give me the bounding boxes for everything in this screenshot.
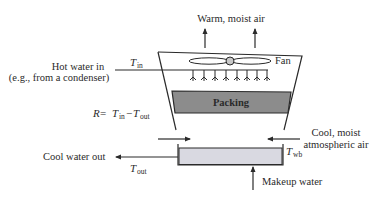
svg-text:T: T <box>130 162 137 174</box>
t-in-label: T in <box>130 56 143 70</box>
spray-nozzles <box>190 70 270 81</box>
makeup-water-label: Makeup water <box>262 176 323 187</box>
fan-icon <box>189 57 271 65</box>
warm-air-label: Warm, moist air <box>197 13 265 24</box>
svg-text:wb: wb <box>293 150 302 159</box>
cool-water-out-label: Cool water out <box>43 151 105 162</box>
svg-text:T: T <box>130 56 137 68</box>
packing-label: Packing <box>213 97 250 108</box>
svg-text:out: out <box>137 167 148 176</box>
svg-text:in: in <box>137 61 143 70</box>
svg-text:R: R <box>92 107 100 119</box>
svg-text:T: T <box>286 145 293 157</box>
cooling-tower-diagram: Warm, moist air Fan Hot water in (e.g., … <box>0 0 384 202</box>
fan-label: Fan <box>275 55 292 66</box>
svg-text:=: = <box>100 107 106 119</box>
range-equation: R = T in − T out <box>92 107 151 121</box>
cool-air-label: Cool, moist <box>311 127 360 138</box>
svg-text:T: T <box>133 107 140 119</box>
hot-water-in-label: Hot water in <box>52 61 105 72</box>
hot-water-source-label: (e.g., from a condenser) <box>9 72 110 84</box>
atmospheric-air-label: atmospheric air <box>303 139 369 150</box>
svg-text:out: out <box>140 112 151 121</box>
svg-text:in: in <box>119 112 125 121</box>
svg-text:−: − <box>126 107 132 119</box>
svg-text:T: T <box>112 107 119 119</box>
basin-water <box>179 148 282 165</box>
t-out-label: T out <box>130 162 148 176</box>
t-wb-label: T wb <box>286 145 302 159</box>
